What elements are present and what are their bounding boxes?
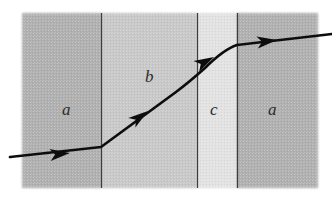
- medium-label-b: b: [145, 68, 154, 85]
- diagram-canvas: [0, 0, 332, 197]
- medium-label-a-left: a: [62, 101, 71, 118]
- medium-label-c: c: [210, 101, 218, 118]
- refraction-ray-diagram: a b c a: [0, 0, 332, 197]
- medium-label-a-right: a: [268, 101, 277, 118]
